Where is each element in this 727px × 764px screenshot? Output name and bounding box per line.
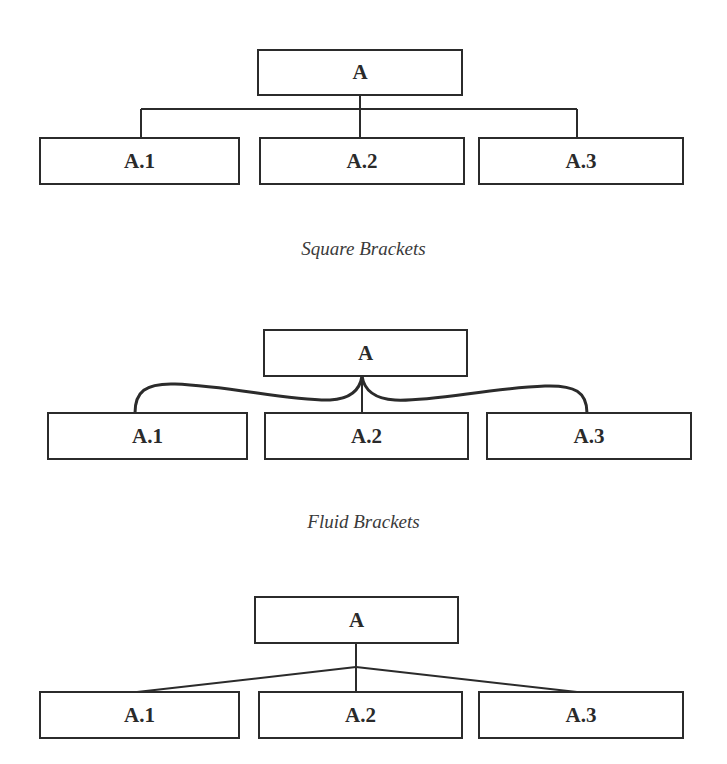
child-node-a3: A.3 <box>478 137 684 185</box>
connector-layer <box>0 0 727 764</box>
square-bracket-connectors <box>141 95 577 138</box>
straight-connectors <box>137 643 577 692</box>
child-node-a1: A.1 <box>39 137 240 185</box>
child-node-a1: A.1 <box>47 412 248 460</box>
parent-node: A <box>263 329 468 377</box>
child-node-a2: A.2 <box>264 412 469 460</box>
child-node-a3: A.3 <box>478 691 684 739</box>
parent-node: A <box>254 596 459 644</box>
child-node-a2: A.2 <box>258 691 463 739</box>
straight-branch-a1 <box>137 667 356 692</box>
child-node-a2: A.2 <box>259 137 465 185</box>
straight-branch-a3 <box>356 667 577 692</box>
fluid-curve-left <box>135 376 362 413</box>
fluid-curve-right <box>362 376 587 413</box>
fluid-bracket-connectors <box>135 376 587 413</box>
child-node-a3: A.3 <box>486 412 692 460</box>
caption-fluid-brackets: Fluid Brackets <box>0 511 727 533</box>
caption-square-brackets: Square Brackets <box>0 238 727 260</box>
child-node-a1: A.1 <box>39 691 240 739</box>
parent-node: A <box>257 49 463 96</box>
